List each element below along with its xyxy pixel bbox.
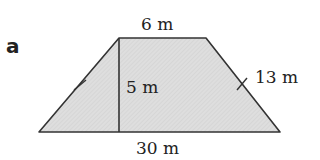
height-label: 5 m [126, 77, 158, 97]
top-length-label: 6 m [141, 14, 173, 34]
trapezium-shape [39, 38, 280, 132]
bottom-length-label: 30 m [136, 138, 179, 158]
slant-length-label: 13 m [255, 67, 298, 87]
